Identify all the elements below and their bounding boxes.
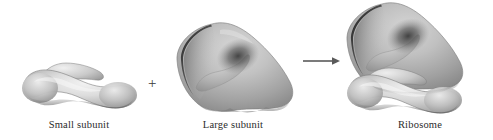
small-subunit-left-lobe bbox=[22, 73, 58, 103]
caption-ribosome: Ribosome bbox=[350, 119, 490, 130]
small-subunit-shape bbox=[22, 63, 137, 108]
caption-large-subunit: Large subunit bbox=[168, 119, 298, 130]
right-arrow-icon bbox=[303, 57, 340, 65]
caption-small-subunit: Small subunit bbox=[0, 119, 158, 130]
plus-operator: + bbox=[148, 76, 156, 91]
figure-canvas: + Small subunit Large subunit Ribosome bbox=[0, 0, 493, 140]
small-subunit-right-bulb bbox=[99, 82, 137, 108]
ribosome-small-left-lobe bbox=[347, 78, 383, 108]
large-subunit-shape bbox=[177, 23, 293, 113]
ribosome-complex-shape bbox=[347, 3, 463, 114]
